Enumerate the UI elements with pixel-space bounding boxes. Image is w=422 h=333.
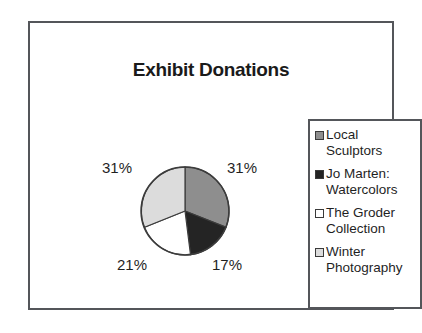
legend-swatch-groder-collection [315,209,324,218]
legend-label-winter-photography: Winter Photography [326,244,417,276]
legend-swatch-jo-marten [315,170,324,179]
chart-frame: Exhibit Donations 31% 31% 21% 17% [28,21,394,310]
legend-item-local-sculptors[interactable]: Local Sculptors [315,127,417,159]
pie-chart-plot-area: 31% 31% 21% 17% [90,143,280,293]
legend-label-jo-marten: Jo Marten: Watercolors [326,166,417,198]
chart-legend: Local Sculptors Jo Marten: Watercolors T… [308,119,422,309]
data-label-winter-photography: 31% [102,159,132,176]
legend-swatch-local-sculptors [315,131,324,140]
legend-item-winter-photography[interactable]: Winter Photography [315,244,417,276]
legend-item-groder-collection[interactable]: The Groder Collection [315,205,417,237]
legend-label-groder-collection: The Groder Collection [326,205,417,237]
data-label-local-sculptors: 31% [227,159,257,176]
data-label-groder-collection: 21% [117,256,147,273]
chart-title: Exhibit Donations [30,59,392,81]
data-label-jo-marten: 17% [212,256,242,273]
legend-item-jo-marten[interactable]: Jo Marten: Watercolors [315,166,417,198]
legend-label-local-sculptors: Local Sculptors [326,127,417,159]
legend-swatch-winter-photography [315,248,324,257]
